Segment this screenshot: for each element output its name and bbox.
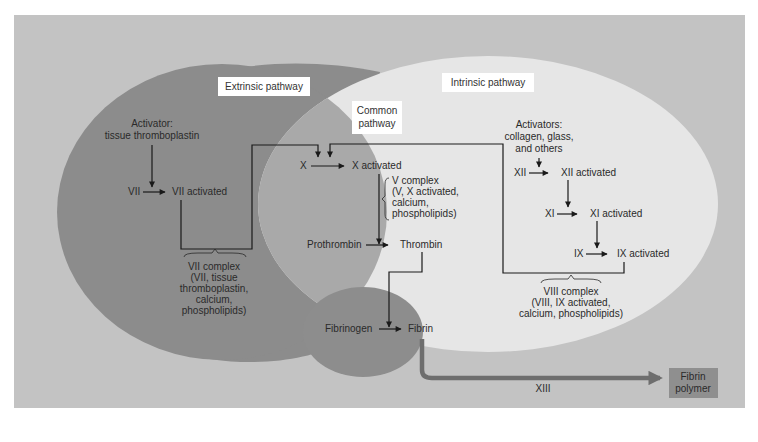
vii-complex-label: VII complex (VII, tissue thromboplastin,… — [180, 261, 248, 316]
extrinsic-activator-label: Activator: — [131, 118, 173, 129]
factor-xi: XI — [545, 208, 554, 219]
factor-xiii-label: XIII — [535, 383, 550, 394]
factor-xii-activated: XII activated — [561, 167, 616, 178]
common-pathway-label-box: Common pathway — [352, 101, 402, 134]
svg-text:Activators:: Activators: — [516, 119, 563, 130]
fibrin-polymer-box: Fibrin polymer — [669, 368, 718, 398]
svg-text:phospholipids): phospholipids) — [182, 305, 247, 316]
factor-xi-activated: XI activated — [590, 208, 642, 219]
svg-text:(VII, tissue: (VII, tissue — [190, 272, 238, 283]
svg-text:VII complex: VII complex — [188, 261, 240, 272]
svg-text:calcium, phospholipids): calcium, phospholipids) — [519, 308, 623, 319]
factor-vii-activated: VII activated — [172, 186, 227, 197]
svg-text:thromboplastin,: thromboplastin, — [180, 283, 248, 294]
fibrin-polymer-line2: polymer — [675, 383, 711, 394]
prothrombin: Prothrombin — [307, 239, 361, 250]
svg-text:(V, X activated,: (V, X activated, — [392, 186, 459, 197]
svg-text:calcium,: calcium, — [196, 294, 233, 305]
fibrinogen: Fibrinogen — [325, 323, 372, 334]
common-pathway-label-line2: pathway — [358, 118, 395, 129]
fibrin-polymer-line1: Fibrin — [680, 371, 705, 382]
factor-ix-activated: IX activated — [617, 248, 669, 259]
extrinsic-pathway-label-box: Extrinsic pathway — [218, 77, 310, 96]
svg-text:and others: and others — [515, 143, 562, 154]
common-pathway-label-line1: Common — [357, 105, 398, 116]
factor-ix: IX — [574, 248, 584, 259]
extrinsic-pathway-label: Extrinsic pathway — [225, 81, 303, 92]
svg-text:V complex: V complex — [392, 175, 439, 186]
thrombin: Thrombin — [400, 239, 442, 250]
svg-text:(VIII, IX activated,: (VIII, IX activated, — [532, 297, 611, 308]
fibrin: Fibrin — [408, 323, 433, 334]
factor-vii: VII — [128, 186, 140, 197]
intrinsic-pathway-label-box: Intrinsic pathway — [442, 73, 534, 92]
svg-text:phospholipids): phospholipids) — [392, 208, 457, 219]
svg-text:collagen, glass,: collagen, glass, — [505, 131, 574, 142]
extrinsic-activator-name: tissue thromboplastin — [105, 130, 200, 141]
coagulation-cascade-diagram: Extrinsic pathway Intrinsic pathway Comm… — [0, 0, 758, 442]
svg-text:calcium,: calcium, — [392, 197, 429, 208]
factor-xii: XII — [514, 167, 526, 178]
factor-x-activated: X activated — [352, 160, 401, 171]
factor-x: X — [300, 160, 307, 171]
intrinsic-pathway-label: Intrinsic pathway — [451, 77, 525, 88]
svg-text:VIII complex: VIII complex — [543, 286, 598, 297]
